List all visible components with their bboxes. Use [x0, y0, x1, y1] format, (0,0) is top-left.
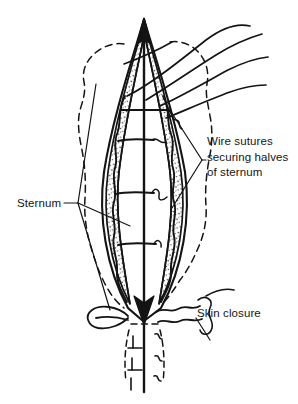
sternotomy-figure: Wire suturessecuring halvesof sternum St…: [0, 0, 298, 404]
label-wire-sutures-line1: Wire sutures: [207, 135, 273, 147]
label-sternum: Sternum: [17, 196, 61, 212]
label-wire-sutures-line3: of sternum: [207, 166, 262, 178]
label-wire-sutures: Wire suturessecuring halvesof sternum: [207, 134, 288, 181]
label-wire-sutures-line2: securing halves: [207, 151, 288, 163]
label-skin-closure: Skin closure: [197, 306, 261, 322]
